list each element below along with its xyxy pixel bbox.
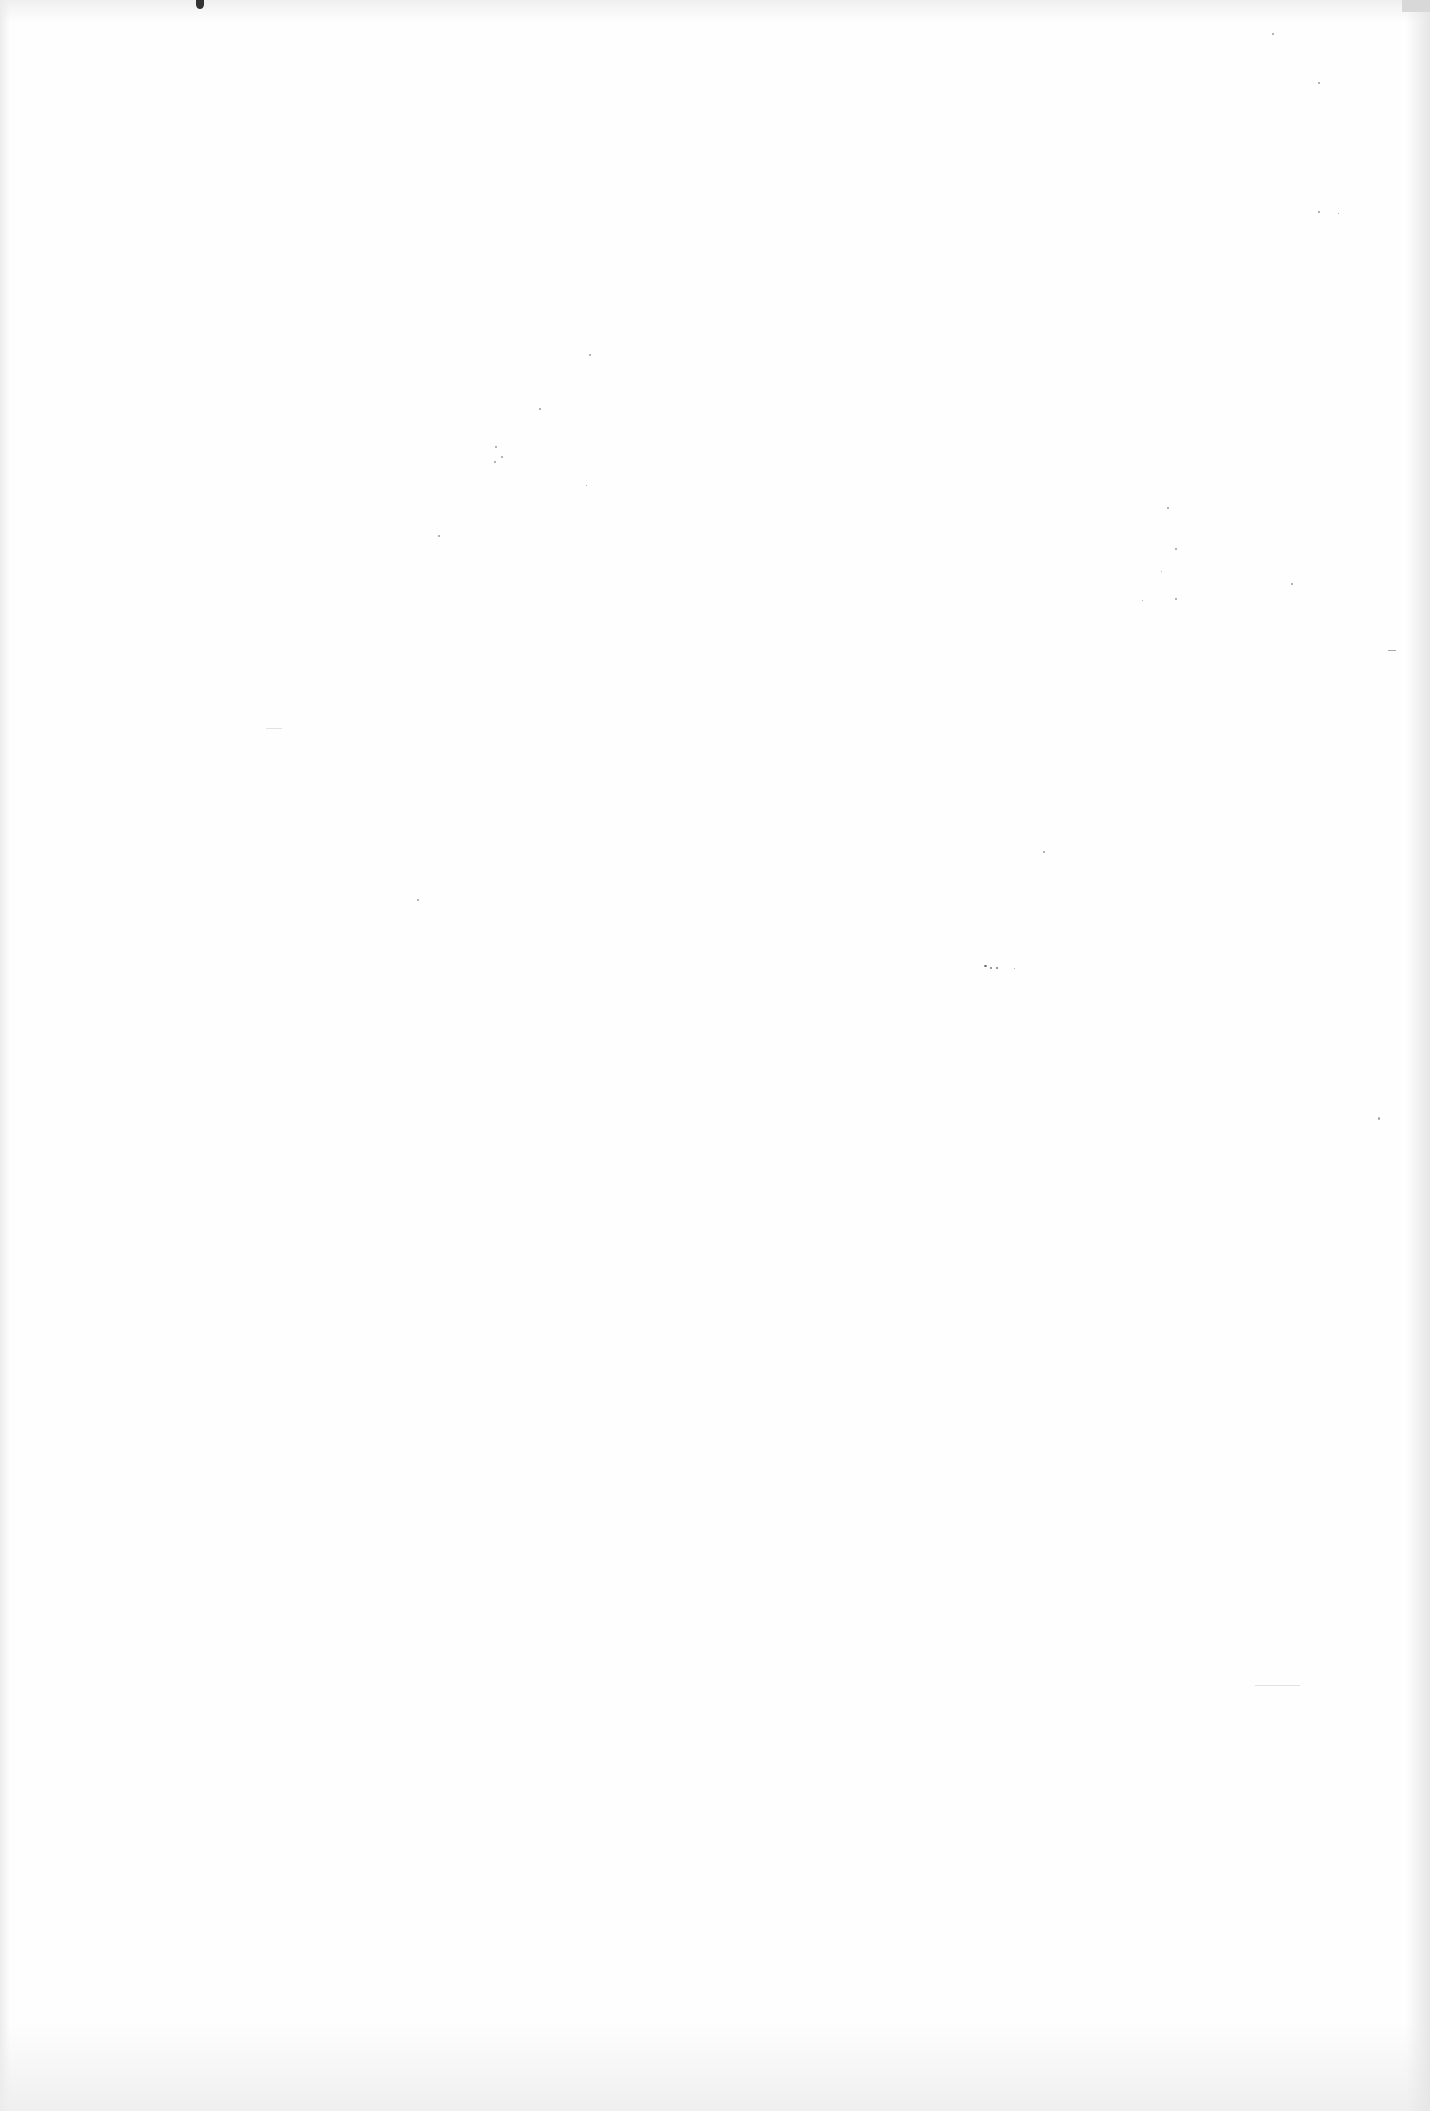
scan-edge-left [0,0,10,2111]
scan-edge-right [1406,0,1430,2111]
blank-document-page [0,0,1430,2111]
faint-line-left [266,728,282,729]
scan-edge-bottom [0,2021,1430,2111]
faint-line-right [1255,1685,1300,1686]
faint-line-edge [1388,650,1396,651]
page-corner-fold [1402,0,1430,12]
ink-blot-mark [196,0,204,9]
scan-edge-top [0,0,1430,22]
